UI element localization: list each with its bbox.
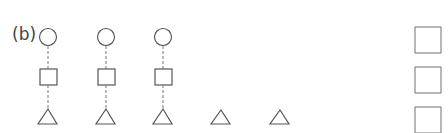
answer-box-1[interactable] [415,27,441,53]
square-shape [40,69,57,85]
shape-diagram [0,0,448,133]
column-1 [38,29,57,125]
square-shape [98,69,115,85]
answer-box-2[interactable] [415,67,441,93]
circle-shape [155,29,172,46]
triangle-shape [96,109,115,124]
triangle-shape [153,109,172,124]
column-5 [270,110,289,124]
square-shape [155,69,172,85]
circle-shape [98,29,115,46]
triangle-shape [211,110,230,124]
column-4 [211,110,230,124]
column-2 [96,29,115,125]
triangle-shape [38,109,57,124]
circle-shape [40,29,57,46]
triangle-shape [270,110,289,124]
answer-box-3[interactable] [415,107,441,133]
column-3 [153,29,172,125]
